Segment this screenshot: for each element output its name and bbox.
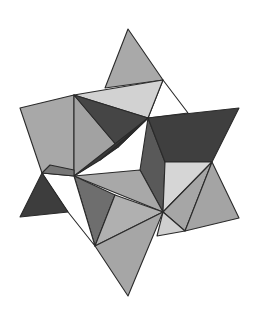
polyhedron-drawing bbox=[0, 0, 258, 320]
polyhedron-figure: Stellated polyhedron (compound of tetrah… bbox=[0, 0, 258, 320]
